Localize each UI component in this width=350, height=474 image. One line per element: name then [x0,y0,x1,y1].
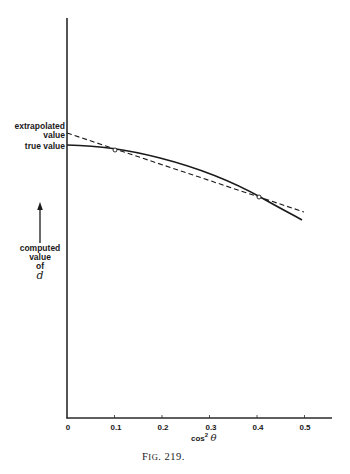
up-arrow-icon [37,202,43,210]
intersection-marker-0.1 [113,148,117,152]
caption-smallcaps: IG [148,452,158,462]
intersection-marker-0.4 [257,195,261,199]
x-axis-label-theta: θ [210,432,216,443]
extrapolation-line [67,133,304,212]
x-axis-label-cos: cos [191,434,205,443]
computed-curve [67,145,302,220]
x-axis-label-exponent: 2 [205,432,208,438]
x-tick-label-1: 0.1 [110,423,121,432]
caption-suffix: . 219. [158,451,185,462]
x-tick-label-5: 0.5 [299,423,310,432]
extrapolated-label-line2: value [14,131,65,140]
figure-plot [0,0,350,474]
x-tick-label-0: 0 [66,423,70,432]
x-tick-label-2: 0.2 [157,423,168,432]
x-axis-label: cos2 θ [191,432,216,443]
x-tick-label-4: 0.4 [252,423,263,432]
figure-caption: FIG. 219. [142,451,185,462]
extrapolated-value-label: extrapolated value [14,122,65,140]
y-axis-side-label: computed value of d [10,244,70,280]
side-label-variable: d [10,271,70,280]
true-value-label: true value [25,141,65,151]
x-tick-label-3: 0.3 [205,423,216,432]
